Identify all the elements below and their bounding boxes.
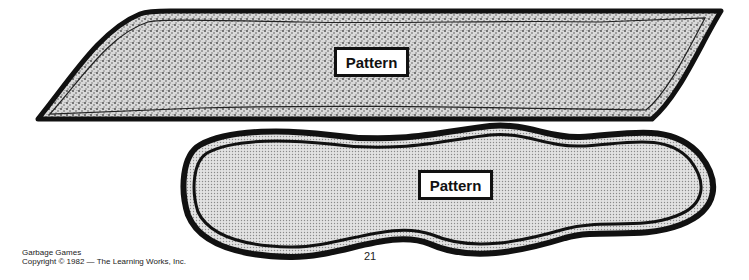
footer-copyright: Copyright © 1982 — The Learning Works, I… xyxy=(22,257,186,266)
footer: Garbage Games Copyright © 1982 — The Lea… xyxy=(22,248,186,266)
top-pattern-label: Pattern xyxy=(334,47,409,77)
page-number: 21 xyxy=(364,250,376,262)
pattern-artwork xyxy=(0,0,749,280)
footer-title: Garbage Games xyxy=(22,248,186,257)
bottom-pattern-label: Pattern xyxy=(418,170,493,200)
